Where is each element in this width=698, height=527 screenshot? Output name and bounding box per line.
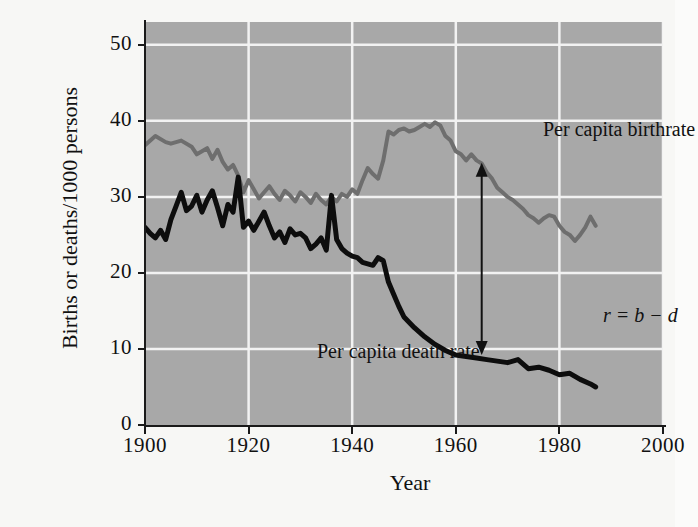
vertical-gridlines: [249, 22, 663, 425]
x-tick-label: 1960: [421, 433, 491, 458]
series-line-birthrate: [145, 122, 596, 241]
x-axis-line: [144, 425, 666, 427]
y-tick-label: 50: [92, 31, 132, 56]
annotation-r-equation: r = b − d: [603, 304, 678, 327]
y-axis-title: Births or deaths/1000 persons: [57, 18, 83, 418]
y-tick-mark: [138, 272, 145, 274]
x-tick-label: 1980: [524, 433, 594, 458]
series-label-deathrate: Per capita death rate: [317, 340, 480, 363]
growth-rate-arrow: [476, 163, 488, 355]
y-tick-label: 40: [92, 107, 132, 132]
x-tick-label: 2000: [628, 433, 698, 458]
y-axis-line: [144, 20, 146, 427]
plot-svg: [145, 22, 663, 425]
plot-area: Per capita birthrate Per capita death ra…: [145, 22, 663, 425]
y-tick-mark: [138, 120, 145, 122]
x-axis-title: Year: [330, 470, 490, 496]
x-tick-label: 1900: [110, 433, 180, 458]
series-label-birthrate: Per capita birthrate: [543, 118, 695, 141]
y-tick-mark: [138, 348, 145, 350]
y-tick-label: 10: [92, 335, 132, 360]
x-tick-label: 1940: [317, 433, 387, 458]
x-tick-label: 1920: [214, 433, 284, 458]
horizontal-gridlines: [145, 45, 663, 349]
y-tick-label: 30: [92, 183, 132, 208]
y-tick-mark: [138, 424, 145, 426]
y-tick-mark: [138, 196, 145, 198]
y-tick-mark: [138, 44, 145, 46]
y-tick-label: 20: [92, 259, 132, 284]
